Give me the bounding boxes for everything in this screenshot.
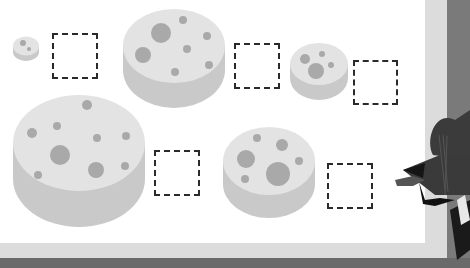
cheese-tiny[interactable] (11, 35, 41, 63)
cheese-hole (122, 132, 130, 140)
answer-slot-1[interactable] (52, 33, 98, 79)
answer-slot-5[interactable] (327, 163, 373, 209)
cheese-hole (308, 63, 324, 79)
cheese-hole (20, 40, 26, 46)
answer-slot-4[interactable] (154, 150, 200, 196)
cat-character (395, 100, 470, 268)
cheese-hole (328, 62, 334, 68)
cheese-hole (179, 16, 187, 24)
cheese-hole (183, 45, 191, 53)
answer-slot-3[interactable] (353, 60, 398, 105)
cheese-hole (27, 47, 31, 51)
cheese-small[interactable] (289, 42, 349, 102)
cheese-hole (27, 128, 37, 138)
cheese-hole (135, 47, 151, 63)
cheese-huge[interactable] (11, 93, 147, 229)
cheese-hole (82, 100, 92, 110)
cheese-hole (319, 51, 325, 57)
cheese-hole (237, 150, 255, 168)
cheese-hole (151, 23, 171, 43)
cheese-hole (88, 162, 104, 178)
cat-face (403, 155, 470, 195)
cheese-hole (93, 134, 101, 142)
cheese-hole (300, 54, 310, 64)
cheese-hole (121, 162, 129, 170)
cheese-hole (203, 32, 211, 40)
game-scene (0, 0, 470, 268)
cheese-hole (253, 134, 261, 142)
cheese-hole (266, 162, 290, 186)
cheese-hole (53, 122, 61, 130)
cheese-hole (34, 171, 42, 179)
cheese-hole (205, 61, 213, 69)
cheese-hole (295, 157, 303, 165)
cheese-hole (276, 139, 288, 151)
cheese-medium[interactable] (221, 126, 317, 220)
cheese-hole (50, 145, 70, 165)
cheese-hole (171, 68, 179, 76)
answer-slot-2[interactable] (234, 43, 280, 89)
cheese-hole (241, 175, 249, 183)
cat-head (430, 110, 470, 160)
